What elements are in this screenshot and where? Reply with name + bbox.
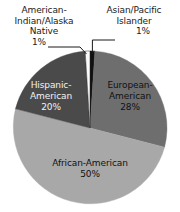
pie-label-line: American (20, 91, 82, 102)
pie-label-percent: 50% (36, 169, 144, 180)
pie-label-line: Asian/Pacific (92, 5, 176, 16)
pie-label-hispanic-american: Hispanic- American 20% (20, 80, 82, 113)
pie-label-line: Indian/Alaska (2, 16, 86, 27)
pie-label-line: Hispanic- (20, 80, 82, 91)
pie-label-line: American (98, 91, 162, 102)
pie-label-asian-pacific-islander: Asian/Pacific Islander 1% (92, 5, 176, 37)
pie-label-african-american: African-American 50% (36, 158, 144, 180)
pie-label-european-american: European- American 28% (98, 80, 162, 113)
pie-label-percent: 1% (92, 26, 176, 37)
pie-label-percent: 20% (20, 102, 82, 113)
pie-label-line: American- (2, 5, 86, 16)
pie-label-line: European- (98, 80, 162, 91)
pie-label-percent: 1% (2, 37, 86, 48)
pie-chart: American- Indian/Alaska Native 1% Asian/… (0, 0, 180, 212)
pie-label-line: African-American (36, 158, 144, 169)
pie-label-line: Islander (92, 16, 176, 27)
pie-label-line: Native (2, 26, 86, 37)
pie-label-american-indian-alaska-native: American- Indian/Alaska Native 1% (2, 5, 86, 47)
pie-label-percent: 28% (98, 102, 162, 113)
